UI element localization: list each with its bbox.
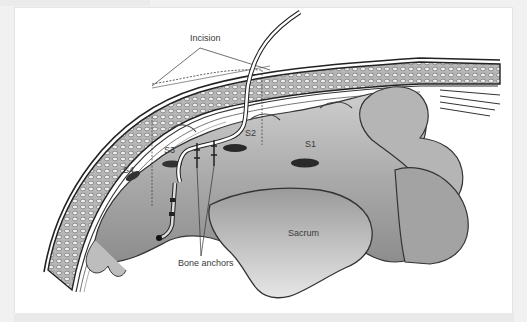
- label-s3: S3: [164, 146, 175, 155]
- label-incision: Incision: [190, 34, 221, 43]
- label-bone-anchors: Bone anchors: [178, 259, 234, 268]
- label-s1: S1: [305, 140, 316, 149]
- label-s2: S2: [245, 129, 256, 138]
- label-sacrum: Sacrum: [288, 229, 319, 238]
- s2-foramen: [223, 144, 247, 152]
- s1-foramen: [291, 159, 319, 168]
- label-s4: S4: [123, 166, 134, 175]
- sacrum-illustration: [0, 0, 527, 322]
